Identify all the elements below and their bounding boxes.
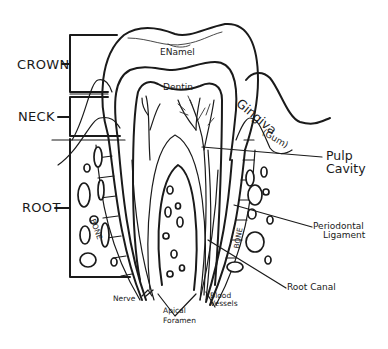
pulp-core xyxy=(148,135,205,295)
label-neck: NECK xyxy=(18,110,55,123)
label-dentin: Dentin xyxy=(163,83,193,92)
label-root: ROOT xyxy=(22,201,61,214)
label-crown: CROWN xyxy=(17,58,69,71)
label-vessels: Vessels xyxy=(210,300,238,308)
label-foramen: Foramen xyxy=(163,317,196,325)
label-periodontal-ligament: Periodontal Ligament xyxy=(313,222,365,240)
label-root-canal: Root Canal xyxy=(287,283,336,292)
tooth-diagram: CROWN NECK ROOT ENamel Dentin Gingiva (G… xyxy=(0,0,388,349)
nerve-branches xyxy=(142,96,214,300)
label-pulp-cavity: Pulp Cavity xyxy=(326,150,366,175)
label-ligament: Ligament xyxy=(313,231,365,240)
label-apical-foramen: Apical Foramen xyxy=(163,307,196,324)
label-blood-vessels: Blood Vessels xyxy=(210,292,238,307)
label-nerve: Nerve xyxy=(113,295,135,303)
label-cavity: Cavity xyxy=(326,163,366,176)
label-enamel: ENamel xyxy=(160,48,195,57)
label-apical: Apical xyxy=(163,307,196,315)
